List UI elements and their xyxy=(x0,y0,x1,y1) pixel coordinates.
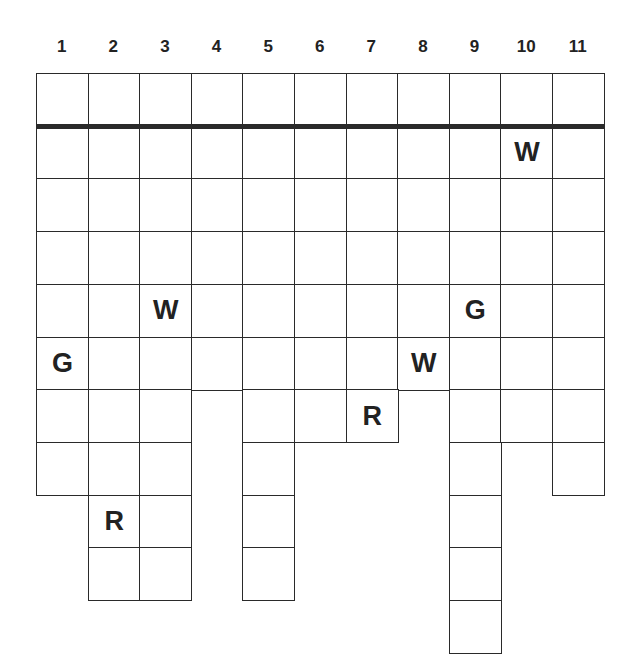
grid-cell-r7-c11[interactable] xyxy=(552,389,605,443)
column-header-11: 11 xyxy=(552,36,604,58)
grid-cell-r4-c10[interactable] xyxy=(500,231,553,285)
grid-cell-r5-c1[interactable] xyxy=(36,284,89,338)
cell-letter: R xyxy=(104,506,124,537)
grid-cell-r2-c9[interactable] xyxy=(449,126,502,180)
grid-cell-r4-c11[interactable] xyxy=(552,231,605,285)
grid-cell-r3-c9[interactable] xyxy=(449,178,502,232)
grid-cell-r2-c11[interactable] xyxy=(552,126,605,180)
grid-cell-r2-c3[interactable] xyxy=(139,126,192,180)
grid-cell-r3-c8[interactable] xyxy=(397,178,450,232)
grid-cell-r1-c5[interactable] xyxy=(242,73,295,127)
grid-cell-r4-c6[interactable] xyxy=(294,231,347,285)
grid-cell-r1-c8[interactable] xyxy=(397,73,450,127)
grid-cell-r6-c4[interactable] xyxy=(191,337,244,391)
grid-cell-r4-c7[interactable] xyxy=(346,231,399,285)
grid-cell-r1-c3[interactable] xyxy=(139,73,192,127)
grid-cell-r6-c9[interactable] xyxy=(449,337,502,391)
grid-cell-r2-c2[interactable] xyxy=(88,126,141,180)
grid-cell-r6-c3[interactable] xyxy=(139,337,192,391)
grid-cell-r5-c6[interactable] xyxy=(294,284,347,338)
grid-cell-r8-c5[interactable] xyxy=(242,442,295,496)
grid-cell-r1-c2[interactable] xyxy=(88,73,141,127)
grid-cell-r9-c5[interactable] xyxy=(242,495,295,549)
grid-cell-r10-c2[interactable] xyxy=(88,547,141,601)
grid-cell-r2-c10[interactable]: W xyxy=(500,126,553,180)
grid-cell-r2-c6[interactable] xyxy=(294,126,347,180)
grid-cell-r5-c9[interactable]: G xyxy=(449,284,502,338)
cell-letter: R xyxy=(362,401,382,432)
grid-cell-r7-c10[interactable] xyxy=(500,389,553,443)
grid-cell-r5-c5[interactable] xyxy=(242,284,295,338)
grid-cell-r11-c9[interactable] xyxy=(449,600,502,654)
grid-cell-r1-c6[interactable] xyxy=(294,73,347,127)
grid-cell-r5-c4[interactable] xyxy=(191,284,244,338)
grid-cell-r10-c5[interactable] xyxy=(242,547,295,601)
grid-cell-r7-c2[interactable] xyxy=(88,389,141,443)
grid-cell-r6-c11[interactable] xyxy=(552,337,605,391)
grid-cell-r8-c9[interactable] xyxy=(449,442,502,496)
grid-cell-r4-c4[interactable] xyxy=(191,231,244,285)
grid-cell-r7-c1[interactable] xyxy=(36,389,89,443)
grid-cell-r3-c5[interactable] xyxy=(242,178,295,232)
grid-cell-r3-c2[interactable] xyxy=(88,178,141,232)
grid-cell-r3-c4[interactable] xyxy=(191,178,244,232)
grid-cell-r2-c5[interactable] xyxy=(242,126,295,180)
grid-cell-r4-c5[interactable] xyxy=(242,231,295,285)
grid-cell-r8-c3[interactable] xyxy=(139,442,192,496)
cell-letter: G xyxy=(465,295,486,326)
grid-cell-r9-c2[interactable]: R xyxy=(88,495,141,549)
grid-cell-r3-c3[interactable] xyxy=(139,178,192,232)
column-header-9: 9 xyxy=(449,36,501,58)
grid-cell-r6-c6[interactable] xyxy=(294,337,347,391)
column-header-7: 7 xyxy=(346,36,398,58)
grid-cell-r7-c6[interactable] xyxy=(294,389,347,443)
column-header-5: 5 xyxy=(242,36,294,58)
grid-cell-r6-c5[interactable] xyxy=(242,337,295,391)
grid-cell-r3-c7[interactable] xyxy=(346,178,399,232)
grid-cell-r6-c1[interactable]: G xyxy=(36,337,89,391)
grid-cell-r6-c2[interactable] xyxy=(88,337,141,391)
grid-cell-r1-c7[interactable] xyxy=(346,73,399,127)
grid-cell-r3-c11[interactable] xyxy=(552,178,605,232)
grid-cell-r4-c2[interactable] xyxy=(88,231,141,285)
grid-cell-r8-c11[interactable] xyxy=(552,442,605,496)
grid-cell-r1-c9[interactable] xyxy=(449,73,502,127)
grid-cell-r5-c2[interactable] xyxy=(88,284,141,338)
grid-cell-r5-c8[interactable] xyxy=(397,284,450,338)
grid-cell-r1-c4[interactable] xyxy=(191,73,244,127)
grid-cell-r2-c8[interactable] xyxy=(397,126,450,180)
grid-cell-r1-c11[interactable] xyxy=(552,73,605,127)
grid-cell-r6-c8[interactable]: W xyxy=(397,337,450,391)
grid-cell-r5-c3[interactable]: W xyxy=(139,284,192,338)
thick-divider-line xyxy=(36,124,604,129)
grid-cell-r9-c9[interactable] xyxy=(449,495,502,549)
grid-cell-r2-c7[interactable] xyxy=(346,126,399,180)
grid-cell-r5-c11[interactable] xyxy=(552,284,605,338)
grid-cell-r8-c2[interactable] xyxy=(88,442,141,496)
grid-cell-r1-c10[interactable] xyxy=(500,73,553,127)
grid-cell-r2-c1[interactable] xyxy=(36,126,89,180)
grid-cell-r3-c10[interactable] xyxy=(500,178,553,232)
grid-cell-r3-c1[interactable] xyxy=(36,178,89,232)
grid-cell-r10-c9[interactable] xyxy=(449,547,502,601)
grid-cell-r6-c7[interactable] xyxy=(346,337,399,391)
grid-cell-r10-c3[interactable] xyxy=(139,547,192,601)
grid-cell-r9-c3[interactable] xyxy=(139,495,192,549)
grid-cell-r3-c6[interactable] xyxy=(294,178,347,232)
cell-letter: W xyxy=(411,348,436,379)
grid-cell-r2-c4[interactable] xyxy=(191,126,244,180)
column-header-2: 2 xyxy=(88,36,140,58)
grid-cell-r7-c9[interactable] xyxy=(449,389,502,443)
grid-cell-r5-c7[interactable] xyxy=(346,284,399,338)
grid-cell-r4-c9[interactable] xyxy=(449,231,502,285)
grid-cell-r8-c1[interactable] xyxy=(36,442,89,496)
grid-cell-r4-c8[interactable] xyxy=(397,231,450,285)
grid-cell-r7-c3[interactable] xyxy=(139,389,192,443)
grid-cell-r4-c1[interactable] xyxy=(36,231,89,285)
grid-cell-r7-c5[interactable] xyxy=(242,389,295,443)
grid-cell-r5-c10[interactable] xyxy=(500,284,553,338)
grid-cell-r6-c10[interactable] xyxy=(500,337,553,391)
grid-cell-r4-c3[interactable] xyxy=(139,231,192,285)
grid-cell-r7-c7[interactable]: R xyxy=(346,389,399,443)
grid-cell-r1-c1[interactable] xyxy=(36,73,89,127)
